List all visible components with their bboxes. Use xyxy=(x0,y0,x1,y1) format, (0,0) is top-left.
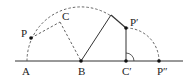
segment-c-b xyxy=(60,22,81,61)
point-p2 xyxy=(157,59,161,63)
point-p1 xyxy=(124,26,128,30)
point-p xyxy=(29,36,33,40)
segment-p-c xyxy=(31,22,60,38)
label-p: P xyxy=(21,27,27,39)
label-c: C xyxy=(62,10,69,22)
label-a: A xyxy=(22,65,30,77)
label-p2: P″ xyxy=(157,65,168,77)
point-b xyxy=(79,59,83,63)
segment-rot-p1 xyxy=(111,15,126,28)
label-b: B xyxy=(78,65,85,77)
arc-p1-to-p2 xyxy=(126,28,159,61)
label-c1: C′ xyxy=(122,65,132,77)
geometry-diagram: P C A B P′ C′ P″ xyxy=(0,0,190,78)
point-c1 xyxy=(124,59,128,63)
segment-b-c-rot xyxy=(81,15,111,61)
label-p1: P′ xyxy=(130,16,139,28)
